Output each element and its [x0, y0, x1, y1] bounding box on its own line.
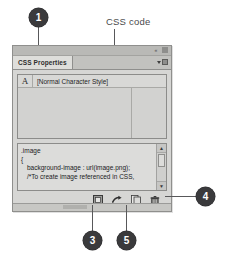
callout-1: 1	[29, 8, 48, 27]
list-item[interactable]: A [Normal Character Style]	[18, 75, 166, 88]
list-item-label: [Normal Character Style]	[33, 78, 108, 85]
callout-3-leader	[92, 205, 93, 232]
callout-4-leader	[165, 196, 198, 197]
figure-canvas: 1 CSS code « CSS Properties	[0, 0, 242, 261]
css-code-label: CSS code	[106, 16, 150, 27]
callout-3: 3	[83, 231, 102, 250]
code-line: background-image : url(image.png);	[21, 164, 154, 173]
window-controls: «	[153, 47, 168, 53]
code-scrollbar[interactable]: ▲ ▼	[156, 144, 166, 190]
code-line: /*To create image referenced in CSS,	[21, 173, 154, 182]
close-icon[interactable]	[162, 47, 168, 53]
css-properties-panel: « CSS Properties A [Normal Character Sty…	[12, 45, 172, 212]
tab-css-properties[interactable]: CSS Properties	[13, 56, 73, 69]
scroll-up-icon[interactable]: ▲	[157, 144, 166, 153]
panel-tabbar: CSS Properties	[13, 56, 171, 70]
code-line: {	[21, 156, 154, 165]
tab-css-properties-label: CSS Properties	[18, 59, 67, 66]
callout-5: 5	[117, 231, 136, 250]
style-list[interactable]: A [Normal Character Style]	[17, 74, 167, 139]
panel-body: A [Normal Character Style] .image { back…	[13, 70, 171, 207]
collapse-icon[interactable]: «	[153, 47, 159, 53]
panel-menu-button[interactable]	[157, 59, 168, 65]
character-style-icon: A	[18, 75, 33, 87]
css-code-area[interactable]: .image { background-image : url(image.pn…	[17, 143, 167, 191]
callout-1-number: 1	[36, 13, 42, 23]
css-code-text: .image { background-image : url(image.pn…	[18, 144, 156, 190]
code-line: .image	[21, 147, 154, 156]
callout-4-number: 4	[203, 192, 209, 202]
panel-menu-icon	[162, 59, 168, 65]
chevron-down-icon	[157, 61, 161, 64]
callout-5-number: 5	[124, 236, 130, 246]
callout-4: 4	[196, 187, 215, 206]
list-column-divider	[131, 87, 132, 138]
callout-3-number: 3	[90, 236, 96, 246]
scrollbar-thumb[interactable]	[158, 154, 165, 167]
callout-5-leader	[126, 205, 127, 232]
scroll-down-icon[interactable]: ▼	[157, 181, 166, 190]
status-grip	[63, 205, 87, 209]
scrollbar-track[interactable]	[157, 153, 166, 181]
panel-titlebar: «	[13, 46, 171, 56]
